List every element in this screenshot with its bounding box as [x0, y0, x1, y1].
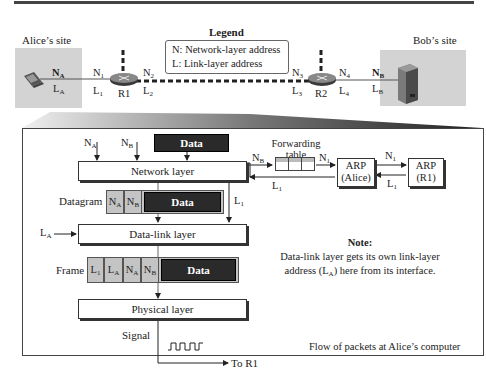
frame-la-field: LA	[104, 257, 123, 283]
signal-label: Signal	[122, 329, 150, 341]
to-r1-label: To R1	[231, 357, 258, 369]
frame-nb-field: NB	[141, 257, 159, 283]
note-title: Note:	[280, 236, 440, 250]
forwarding-table	[275, 157, 315, 171]
data-link-layer-box: Data-link layer	[78, 224, 247, 244]
frame-na-field: NA	[123, 257, 141, 283]
arp-r1-box: ARP (R1)	[408, 158, 444, 187]
l1-down-label: L1	[234, 195, 244, 208]
datagram-na-field: NA	[106, 190, 124, 214]
input-data: Data	[154, 134, 229, 152]
l1-back-label: L1	[272, 180, 282, 193]
datagram-nb-field: NB	[124, 190, 142, 214]
la-input-label: LA	[40, 227, 51, 240]
note-line2: address (LA) here from its interface.	[280, 264, 440, 281]
note-line1: Data-link layer gets its own link-layer	[280, 250, 440, 264]
nb-to-table-label: NB	[252, 152, 264, 165]
flow-arrows	[0, 0, 486, 378]
datagram-label: Datagram	[59, 195, 102, 207]
note-box: Note: Data-link layer gets its own link-…	[280, 236, 440, 281]
network-layer-box: Network layer	[78, 161, 247, 181]
frame-label: Frame	[56, 264, 84, 276]
l1-from-r1-label: L1	[387, 178, 397, 191]
frame-data-field: Data	[161, 259, 236, 281]
arp-alice-box: ARP (Alice)	[337, 158, 375, 187]
input-nb: NB	[121, 137, 133, 150]
input-na: NA	[84, 137, 97, 150]
n1-to-arp-label: N1	[319, 152, 330, 165]
figure-caption: Flow of packets at Alice’s computer	[309, 341, 460, 352]
n1-to-r1-label: N1	[385, 150, 396, 163]
physical-layer-box: Physical layer	[78, 299, 247, 319]
frame-l1-field: L1	[87, 257, 104, 283]
datagram-data-field: Data	[144, 192, 221, 212]
